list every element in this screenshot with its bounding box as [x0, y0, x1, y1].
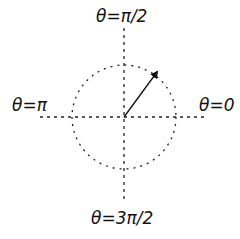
label-zero: θ=0 [199, 97, 234, 114]
direction-arrow [124, 72, 157, 117]
label-pi: θ=π [12, 97, 47, 114]
label-3pi-over-2: θ=3π/2 [91, 210, 153, 227]
polar-diagram [0, 0, 240, 239]
label-pi-over-2: θ=π/2 [96, 8, 147, 25]
